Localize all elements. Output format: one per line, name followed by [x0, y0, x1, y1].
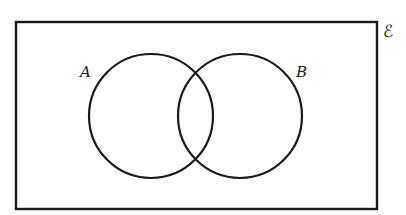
venn-diagram: ℰ A B [0, 0, 406, 215]
set-b-circle [178, 54, 302, 178]
set-b-label: B [295, 63, 307, 81]
universal-set-label: ℰ [383, 21, 393, 41]
universal-set-rectangle [16, 22, 377, 209]
set-a-label: A [78, 63, 91, 81]
